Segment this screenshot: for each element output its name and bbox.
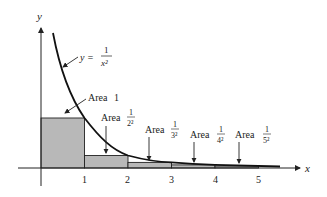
- tick-2: 2: [125, 174, 130, 185]
- svg-text:y =: y =: [79, 52, 94, 63]
- svg-text:3²: 3²: [171, 131, 178, 140]
- svg-text:Area: Area: [190, 129, 210, 140]
- tick-1: 1: [82, 174, 87, 185]
- svg-text:1: 1: [265, 125, 269, 134]
- tick-3: 3: [169, 174, 174, 185]
- area-1-label: Area 1: [65, 92, 119, 113]
- area-2-label: Area 1 2²: [101, 108, 135, 153]
- svg-text:1: 1: [219, 125, 223, 134]
- svg-text:x²: x²: [100, 58, 108, 68]
- svg-text:1: 1: [104, 45, 109, 55]
- svg-text:4²: 4²: [217, 136, 224, 145]
- x-axis-label: x: [304, 162, 310, 174]
- rect-area-1: [41, 118, 85, 168]
- tick-4: 4: [213, 174, 218, 185]
- svg-text:1: 1: [173, 120, 177, 129]
- area-5-label: Area 1 5²: [235, 125, 271, 163]
- equation-label: y = 1 x²: [63, 45, 112, 68]
- area-3-label: Area 1 3²: [145, 120, 179, 160]
- svg-text:1: 1: [114, 92, 119, 103]
- area-under-curve-diagram: y x 1 2 3 4 5 y = 1 x² Area 1 Area 1 2² …: [0, 0, 327, 197]
- svg-text:Area: Area: [101, 112, 121, 123]
- rect-area-3: [128, 162, 172, 168]
- rect-area-2: [85, 156, 129, 169]
- svg-text:2²: 2²: [127, 119, 134, 128]
- area-4-label: Area 1 4²: [190, 125, 225, 162]
- svg-text:5²: 5²: [263, 136, 270, 145]
- tick-5: 5: [256, 174, 261, 185]
- svg-text:Area: Area: [145, 124, 165, 135]
- svg-text:1: 1: [129, 108, 133, 117]
- svg-text:Area: Area: [88, 92, 108, 103]
- y-axis-label: y: [36, 10, 42, 22]
- svg-text:Area: Area: [235, 129, 255, 140]
